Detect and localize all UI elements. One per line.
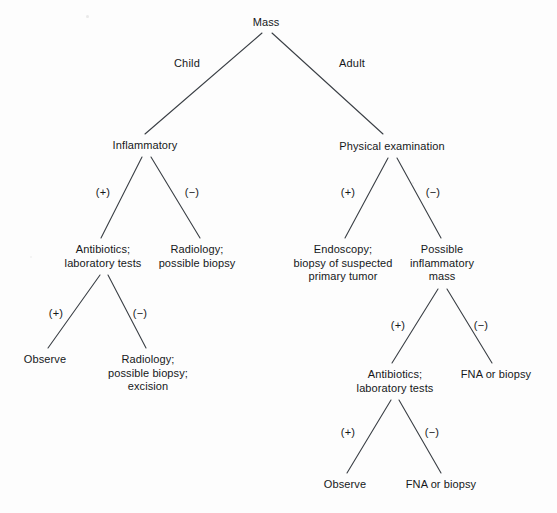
edge-mass-adult [272,33,383,134]
node-observe-left: Observe [24,353,66,367]
node-inflammatory: Inflammatory [113,139,178,153]
scan-artifact-speck [412,182,414,184]
node-antibiotics-left: Antibiotics; laboratory tests [65,243,142,270]
label-poss-inflam-neg: (−) [474,319,488,331]
label-inflam-pos: (+) [96,186,110,198]
label-inflam-neg: (−) [185,186,199,198]
edge-mass-child [145,33,262,134]
label-abx-left-neg: (−) [133,307,147,319]
label-abx-left-pos: (+) [49,307,63,319]
label-child: Child [174,57,200,69]
label-adult: Adult [339,57,365,69]
node-possible-inflam: Possible inflammatory mass [410,243,474,284]
node-mass: Mass [253,16,280,30]
label-abx-right-neg: (−) [425,426,439,438]
node-physical-exam: Physical examination [339,140,444,154]
node-endoscopy: Endoscopy; biopsy of suspected primary t… [293,243,392,284]
edge-physical-pos [345,158,388,238]
node-radiology-excision: Radiology; possible biopsy; excision [108,353,188,394]
label-physical-pos: (+) [341,186,355,198]
node-fna-biopsy-bottom: FNA or biopsy [406,478,476,492]
label-poss-inflam-pos: (+) [391,319,405,331]
scan-artifact-speck [86,15,89,18]
edge-physical-neg [397,158,441,238]
scan-artifact-speck [30,256,32,258]
node-antibiotics-right: Antibiotics; laboratory tests [357,368,434,395]
label-abx-right-pos: (+) [341,426,355,438]
node-fna-biopsy-right: FNA or biopsy [461,368,531,382]
node-observe-bottom: Observe [324,478,366,492]
label-physical-neg: (−) [426,186,440,198]
decision-tree-diagram: MassInflammatoryPhysical examinationAnti… [0,0,557,513]
node-radiology-biopsy: Radiology; possible biopsy [159,243,236,270]
